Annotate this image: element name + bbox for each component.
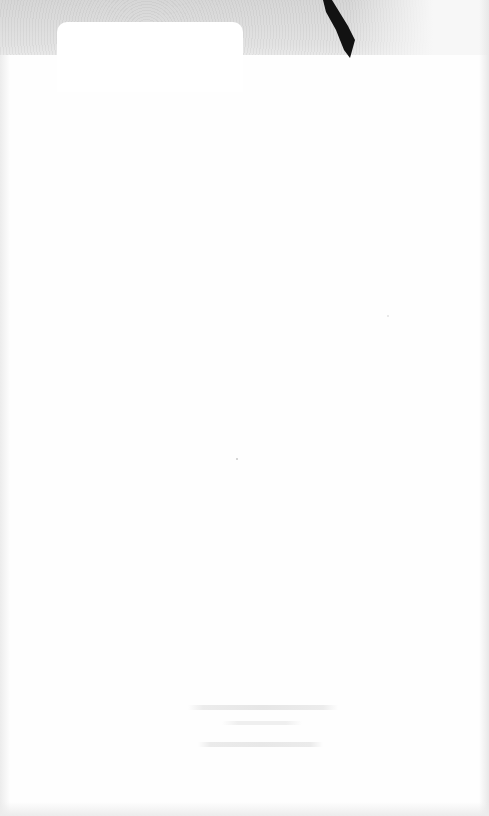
speck [236, 458, 238, 460]
faint-text-smudge-1 [188, 705, 338, 710]
left-edge-shadow [0, 55, 10, 816]
speck [387, 315, 389, 317]
right-edge-shadow [479, 0, 489, 816]
faint-text-smudge-2 [222, 721, 302, 725]
bottom-edge-shadow [0, 802, 489, 816]
paper-tab [57, 22, 243, 92]
faint-text-smudge-3 [198, 742, 323, 747]
paper-sheet [0, 55, 489, 816]
dark-mark-icon [322, 0, 356, 62]
